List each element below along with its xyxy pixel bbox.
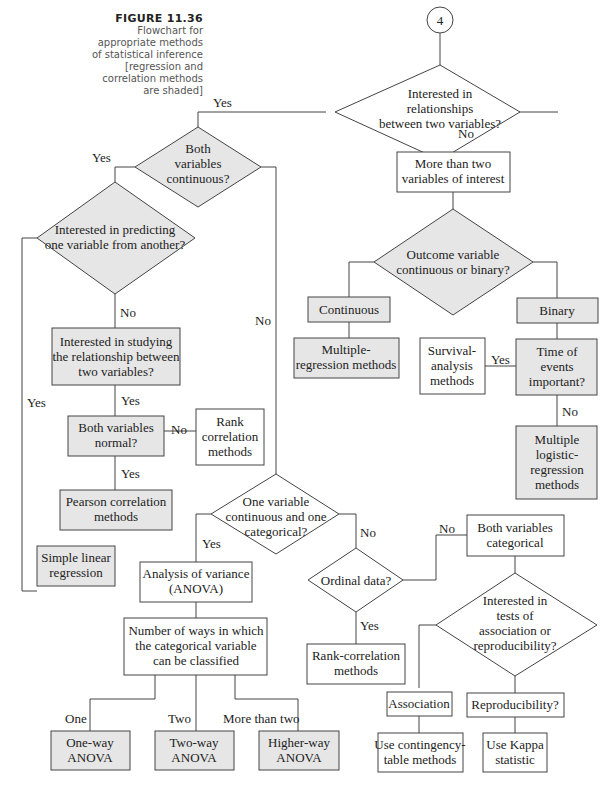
svg-text:important?: important?: [529, 374, 586, 389]
svg-text:Both variables: Both variables: [477, 520, 552, 535]
svg-text:methods: methods: [535, 477, 579, 492]
svg-text:Use Kappa: Use Kappa: [486, 737, 544, 752]
svg-text:Ordinal data?: Ordinal data?: [321, 573, 392, 588]
svg-text:normal?: normal?: [95, 435, 138, 450]
svg-text:can be classified: can be classified: [153, 653, 239, 668]
edge-label: Yes: [92, 150, 111, 165]
svg-text:analysis: analysis: [431, 358, 473, 373]
edge-label: No: [171, 422, 187, 437]
svg-text:One variable: One variable: [243, 494, 310, 509]
svg-text:Rank-correlation: Rank-correlation: [312, 648, 401, 663]
svg-text:relationships: relationships: [407, 101, 473, 116]
edge-label: One: [65, 711, 87, 726]
edge-label: No: [562, 404, 578, 419]
edge-label: Yes: [121, 466, 140, 481]
svg-text:Rank: Rank: [216, 414, 244, 429]
svg-text:continuous and one: continuous and one: [225, 509, 326, 524]
svg-text:regression: regression: [49, 565, 103, 580]
svg-text:Association: Association: [388, 696, 450, 711]
box-contingency: Use contingency- table methods: [374, 733, 465, 772]
edge-label: Yes: [27, 395, 46, 410]
svg-text:Interested in: Interested in: [408, 86, 473, 101]
svg-text:methods: methods: [334, 663, 378, 678]
svg-text:Interested in: Interested in: [483, 593, 548, 608]
svg-text:variables of interest: variables of interest: [402, 171, 505, 186]
connector-label: 4: [437, 13, 444, 28]
svg-text:Survival-: Survival-: [428, 343, 476, 358]
box-higher-way: Higher-way ANOVA: [259, 731, 339, 770]
svg-text:variables: variables: [175, 156, 222, 171]
svg-text:categorical?: categorical?: [245, 524, 308, 539]
box-one-way: One-way ANOVA: [51, 731, 130, 770]
edge-label: Two: [168, 711, 191, 726]
box-simple-linear: Simple linear regression: [37, 546, 115, 586]
edge-label: Yes: [202, 536, 221, 551]
edge-label: Yes: [213, 95, 232, 110]
edge-label: No: [458, 126, 474, 141]
box-kappa: Use Kappa statistic: [483, 733, 547, 772]
edge-label: No: [255, 313, 271, 328]
decision-outcome: Outcome variable continuous or binary?: [374, 209, 533, 315]
svg-text:reproducibility?: reproducibility?: [473, 638, 556, 653]
box-anova: Analysis of variance (ANOVA): [140, 562, 252, 602]
decision-ordinal: Ordinal data?: [308, 548, 403, 612]
svg-text:Reproducibility?: Reproducibility?: [471, 697, 559, 712]
svg-text:Analysis of variance: Analysis of variance: [143, 566, 250, 581]
box-two-way: Two-way ANOVA: [155, 731, 234, 770]
svg-text:ANOVA: ANOVA: [276, 750, 322, 765]
edge-label: No: [120, 305, 136, 320]
svg-text:the relationship between: the relationship between: [52, 349, 180, 364]
svg-text:Two-way: Two-way: [170, 735, 219, 750]
svg-text:events: events: [540, 359, 573, 374]
svg-text:Simple linear: Simple linear: [41, 550, 111, 565]
edge-label: No: [439, 521, 455, 536]
svg-text:logistic-: logistic-: [536, 447, 579, 462]
svg-text:Pearson correlation: Pearson correlation: [66, 494, 167, 509]
svg-text:Higher-way: Higher-way: [268, 735, 330, 750]
box-reproducibility: Reproducibility?: [467, 693, 564, 717]
svg-text:ANOVA: ANOVA: [171, 750, 217, 765]
box-pearson: Pearson correlation methods: [60, 490, 172, 530]
decision-predicting: Interested in predicting one variable fr…: [37, 182, 195, 294]
svg-text:correlation: correlation: [202, 429, 259, 444]
edge-label: Yes: [360, 618, 379, 633]
connector-circle-4: 4: [427, 7, 453, 33]
box-association: Association: [387, 692, 452, 716]
box-continuous: Continuous: [308, 297, 390, 322]
svg-text:statistic: statistic: [495, 752, 535, 767]
box-binary: Binary: [517, 298, 598, 323]
svg-text:ANOVA: ANOVA: [67, 750, 113, 765]
svg-text:Time of: Time of: [536, 344, 578, 359]
box-survival: Survival- analysis methods: [420, 338, 485, 394]
box-logistic: Multiple logistic- regression methods: [516, 426, 597, 499]
svg-text:table methods: table methods: [384, 752, 457, 767]
svg-text:between two variables?: between two variables?: [379, 116, 501, 131]
svg-text:categorical: categorical: [486, 535, 543, 550]
svg-text:continuous?: continuous?: [167, 171, 230, 186]
box-multiple-regression: Multiple- regression methods: [294, 338, 399, 378]
svg-text:Multiple-: Multiple-: [321, 342, 370, 357]
svg-text:association or: association or: [479, 623, 552, 638]
svg-text:Both variables: Both variables: [78, 420, 153, 435]
box-rank-correlation: Rank correlation methods: [196, 409, 264, 465]
box-more-than-two: More than two variables of interest: [397, 152, 510, 192]
svg-text:Continuous: Continuous: [319, 302, 379, 317]
decision-one-cont-one-cat: One variable continuous and one categori…: [211, 474, 339, 554]
svg-text:continuous or binary?: continuous or binary?: [396, 262, 510, 277]
decision-assoc-repro: Interested in tests of association or re…: [436, 573, 597, 676]
decision-both-continuous: Both variables continuous?: [135, 127, 261, 207]
svg-text:regression methods: regression methods: [296, 357, 397, 372]
svg-text:the categorical variable: the categorical variable: [135, 638, 256, 653]
box-num-ways: Number of ways in which the categorical …: [124, 618, 267, 675]
box-rank-corr2: Rank-correlation methods: [307, 644, 405, 684]
svg-text:regression: regression: [530, 462, 584, 477]
svg-text:Outcome variable: Outcome variable: [407, 247, 500, 262]
svg-text:Number of ways in which: Number of ways in which: [128, 623, 264, 638]
svg-text:methods: methods: [94, 509, 138, 524]
svg-text:One-way: One-way: [66, 735, 114, 750]
svg-text:Binary: Binary: [539, 303, 575, 318]
svg-text:methods: methods: [208, 444, 252, 459]
svg-text:Both: Both: [185, 141, 211, 156]
box-time-events: Time of events important?: [516, 339, 597, 395]
svg-text:tests of: tests of: [496, 608, 534, 623]
